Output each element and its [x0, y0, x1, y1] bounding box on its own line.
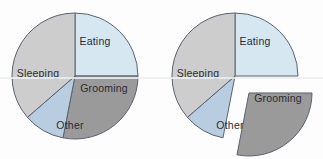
- pie-chart-standard: Eating Grooming Other Sleeping: [0, 0, 161, 159]
- pie-label-grooming: Grooming: [254, 92, 302, 104]
- pie-label-grooming: Grooming: [80, 82, 128, 94]
- pie-label-sleeping: Sleeping: [177, 67, 219, 79]
- pie-chart-exploded: Eating Grooming Other Sleeping: [162, 0, 323, 159]
- pie-chart-exploded-svg: Eating Grooming Other Sleeping: [162, 0, 323, 159]
- pie-chart-figure: Eating Grooming Other Sleeping Eating Gr…: [0, 0, 323, 159]
- pie-chart-standard-svg: Eating Grooming Other Sleeping: [0, 0, 161, 159]
- pie-label-sleeping: Sleeping: [17, 67, 59, 79]
- pie-label-eating: Eating: [240, 35, 271, 47]
- pie-label-other: Other: [216, 119, 244, 131]
- pie-label-eating: Eating: [80, 35, 111, 47]
- pie-label-other: Other: [56, 119, 84, 131]
